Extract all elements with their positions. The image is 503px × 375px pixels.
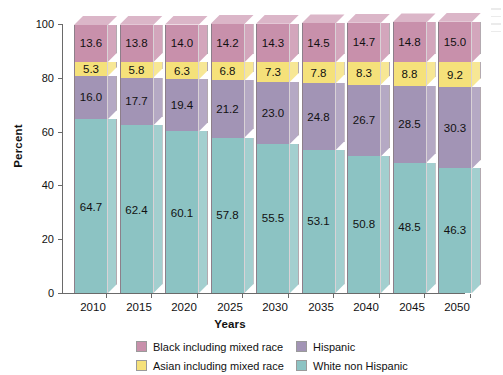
bar-segment[interactable]: 30.3 xyxy=(438,87,472,169)
legend-item[interactable]: Asian including mixed race xyxy=(136,360,296,372)
bar-segment[interactable]: 46.3 xyxy=(438,168,472,293)
bar-segment-value-label: 14.8 xyxy=(394,36,426,48)
bar-segment[interactable]: 6.8 xyxy=(211,62,245,80)
bar-segment-side xyxy=(336,150,345,293)
bar-segment-value-label: 7.8 xyxy=(303,67,335,79)
y-tick-mark xyxy=(58,132,62,133)
bar-segment-value-label: 48.5 xyxy=(394,221,426,233)
bar-segment-side xyxy=(381,23,390,63)
bar-segment-value-label: 62.4 xyxy=(121,204,153,216)
bar-segment-side xyxy=(154,62,163,78)
bar-segment-value-label: 55.5 xyxy=(257,212,289,224)
bar-segment[interactable]: 50.8 xyxy=(347,156,381,293)
bar-segment[interactable]: 5.8 xyxy=(120,62,154,78)
bar-group[interactable]: 55.523.07.314.3 xyxy=(256,24,299,293)
bar-segment[interactable]: 53.1 xyxy=(302,150,336,293)
bar-segment[interactable]: 14.7 xyxy=(347,23,381,63)
bar-segment[interactable]: 55.5 xyxy=(256,144,290,293)
bar-segment-side xyxy=(427,86,436,163)
bar-segment-side xyxy=(245,80,254,137)
y-tick-mark xyxy=(58,239,62,240)
y-tick-mark xyxy=(58,185,62,186)
bar-segment-side xyxy=(472,62,481,87)
x-tick-label: 2040 xyxy=(353,301,379,313)
legend-label: White non Hispanic xyxy=(313,360,408,372)
x-tick-mark xyxy=(242,294,243,298)
y-tick-mark xyxy=(58,78,62,79)
bar-segment[interactable]: 60.1 xyxy=(165,131,199,293)
x-tick-mark xyxy=(379,294,380,298)
bar-segment-side xyxy=(199,62,208,79)
bar-group[interactable]: 62.417.75.813.8 xyxy=(120,24,163,293)
bar-segment-value-label: 16.0 xyxy=(75,91,107,103)
bar-segment[interactable]: 14.5 xyxy=(302,23,336,62)
bar-segment[interactable]: 26.7 xyxy=(347,85,381,157)
bar-segment[interactable]: 13.8 xyxy=(120,25,154,62)
legend-swatch-icon xyxy=(296,341,307,352)
x-tick-label: 2015 xyxy=(126,301,152,313)
bar-segment[interactable]: 17.7 xyxy=(120,78,154,126)
bar-segment[interactable]: 14.2 xyxy=(211,24,245,62)
x-axis-title: Years xyxy=(0,318,460,330)
bar-group[interactable]: 50.826.78.314.7 xyxy=(347,24,390,293)
bar-segment[interactable]: 14.3 xyxy=(256,24,290,62)
bar-segment-side xyxy=(245,138,254,293)
bar-segment[interactable]: 19.4 xyxy=(165,79,199,131)
bar-segment[interactable]: 7.8 xyxy=(302,62,336,83)
legend-item[interactable]: Hispanic xyxy=(296,341,446,353)
bar-segment[interactable]: 9.2 xyxy=(438,62,472,87)
legend-label: Asian including mixed race xyxy=(153,360,284,372)
bar-segment[interactable]: 21.2 xyxy=(211,80,245,137)
bar-segment-side xyxy=(427,22,436,62)
bar-segment-value-label: 14.5 xyxy=(303,37,335,49)
legend-item[interactable]: Black including mixed race xyxy=(136,341,296,353)
bar-segment-side xyxy=(290,82,299,144)
legend-item[interactable]: White non Hispanic xyxy=(296,360,446,372)
legend-swatch-icon xyxy=(136,341,147,352)
bar-segment[interactable]: 6.3 xyxy=(165,62,199,79)
bar-segment-value-label: 24.8 xyxy=(303,111,335,123)
bar-segment-value-label: 14.0 xyxy=(166,37,198,49)
x-tick-mark xyxy=(197,294,198,298)
bar-group[interactable]: 48.528.58.814.8 xyxy=(393,24,436,293)
bar-segment-value-label: 30.3 xyxy=(439,122,471,134)
bar-segment-value-label: 8.3 xyxy=(348,67,380,79)
bar-segment[interactable]: 14.8 xyxy=(393,22,427,62)
bar-segment[interactable]: 7.3 xyxy=(256,62,290,82)
bar-segment[interactable]: 57.8 xyxy=(211,138,245,293)
x-tick-mark xyxy=(151,294,152,298)
bar-segment[interactable]: 15.0 xyxy=(438,22,472,62)
bar-segment[interactable]: 14.0 xyxy=(165,25,199,63)
bar-segment-side xyxy=(336,23,345,62)
bar-segment[interactable]: 23.0 xyxy=(256,82,290,144)
bar-group[interactable]: 53.124.87.814.5 xyxy=(302,24,345,293)
bar-segment[interactable]: 8.3 xyxy=(347,62,381,84)
bar-segment-side xyxy=(154,125,163,293)
bar-segment[interactable]: 16.0 xyxy=(74,76,108,119)
bar-segment[interactable]: 8.8 xyxy=(393,62,427,86)
x-tick-mark xyxy=(424,294,425,298)
bar-segment[interactable]: 5.3 xyxy=(74,62,108,76)
bar-segment-side xyxy=(108,76,117,119)
bar-group[interactable]: 64.716.05.313.6 xyxy=(74,24,117,293)
bar-segment[interactable]: 24.8 xyxy=(302,83,336,150)
bar-top-face xyxy=(256,15,299,24)
bar-segment[interactable]: 62.4 xyxy=(120,125,154,293)
bar-segment-value-label: 6.3 xyxy=(166,65,198,77)
bar-segment-side xyxy=(108,119,117,293)
bar-segment[interactable]: 48.5 xyxy=(393,163,427,293)
bar-segment-value-label: 5.8 xyxy=(121,64,153,76)
bar-group[interactable]: 57.821.26.814.2 xyxy=(211,24,254,293)
bar-segment[interactable]: 64.7 xyxy=(74,119,108,293)
bar-segment[interactable]: 28.5 xyxy=(393,86,427,163)
x-tick-label: 2045 xyxy=(399,301,425,313)
bar-segment-side xyxy=(381,85,390,157)
bar-segment[interactable]: 13.6 xyxy=(74,25,108,62)
bar-segment-side xyxy=(472,22,481,62)
bar-group[interactable]: 60.119.46.314.0 xyxy=(165,24,208,293)
bar-segment-value-label: 14.3 xyxy=(257,37,289,49)
x-tick-label: 2025 xyxy=(217,301,243,313)
x-tick-mark xyxy=(106,294,107,298)
bar-group[interactable]: 46.330.39.215.0 xyxy=(438,24,481,293)
y-axis-title: Percent xyxy=(12,106,24,186)
